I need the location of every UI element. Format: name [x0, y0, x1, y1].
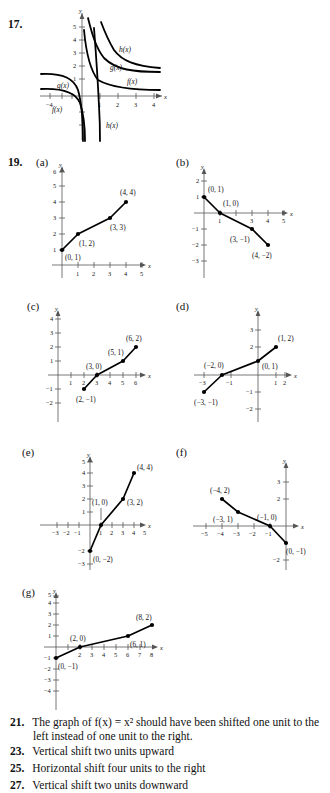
svg-text:(0, −2): (0, −2) — [93, 556, 113, 564]
graph-19a-svg: x y 1 2 3 4 5 1 2 3 4 — [48, 160, 156, 285]
svg-text:x: x — [147, 372, 151, 379]
panel-letter-a: (a) — [36, 156, 48, 168]
data-19c: (2, −1) (3, 0) (5, 1) (6, 2) — [76, 335, 142, 404]
svg-text:−2: −2 — [46, 399, 53, 406]
svg-text:4: 4 — [108, 379, 112, 386]
data-19d: (−3, −1) (−2, 0) (0, 1) (1, 2) — [194, 335, 294, 407]
svg-text:−3: −3 — [52, 529, 59, 536]
graph-19c-svg: x y 1 2 3 4 5 6 1 2 — [44, 302, 160, 430]
svg-text:5: 5 — [140, 270, 143, 277]
svg-text:2: 2 — [196, 177, 199, 184]
svg-text:3: 3 — [82, 482, 85, 489]
svg-text:2: 2 — [48, 621, 51, 628]
svg-text:(−4, 2): (−4, 2) — [210, 487, 230, 495]
svg-text:(1, 0): (1, 0) — [223, 200, 239, 208]
svg-text:4: 4 — [102, 651, 106, 658]
svg-text:x: x — [300, 523, 304, 530]
svg-text:(0, −1): (0, −1) — [286, 548, 306, 556]
svg-text:(1, 2): (1, 2) — [278, 335, 294, 343]
svg-text:1: 1 — [73, 75, 76, 82]
svg-text:(4, 4): (4, 4) — [137, 464, 153, 472]
graph-19d: x y −3 −1 1 2 2 3 −1 −2 — [190, 302, 308, 430]
svg-text:(2, 0): (2, 0) — [70, 635, 86, 643]
svg-text:1: 1 — [196, 193, 199, 200]
axes-19e: x y −3 −2 −1 1 2 3 4 5 — [40, 451, 151, 570]
answer-23-text: Vertical shift two units upward — [32, 745, 174, 757]
svg-text:h(x): h(x) — [119, 45, 131, 54]
svg-text:x: x — [163, 93, 167, 100]
graph-19b-svg: x y 1 3 4 5 1 2 −1 −2 −3 — [190, 160, 302, 285]
answer-27-line1: 27. Vertical shift two units downward — [10, 779, 326, 791]
svg-text:−4: −4 — [217, 530, 225, 537]
data-19f: (−4, 2) (−3, 1) (−1, 0) (0, −1) — [210, 487, 306, 556]
answer-key-page: 17. x y −4 1 2 3 — [0, 0, 330, 793]
svg-text:−2: −2 — [246, 405, 253, 412]
svg-text:3: 3 — [48, 610, 51, 617]
svg-text:y: y — [78, 7, 82, 14]
svg-text:2: 2 — [50, 343, 53, 350]
svg-text:1: 1 — [50, 357, 53, 364]
svg-text:4: 4 — [73, 36, 77, 43]
graph-19f-svg: x y −5 −4 −3 −2 −1 2 3 −2 — [185, 452, 313, 578]
graph-19e: x y −3 −2 −1 1 2 3 4 5 — [36, 448, 160, 578]
svg-text:5: 5 — [53, 182, 56, 189]
svg-text:−2: −2 — [249, 530, 256, 537]
data-19g: (0, −1) (2, 0) (6, 1) (8, 2) — [54, 614, 154, 671]
svg-text:−2: −2 — [44, 665, 51, 672]
svg-text:3: 3 — [90, 651, 93, 658]
svg-text:3: 3 — [53, 214, 56, 221]
svg-text:(0, 1): (0, 1) — [262, 363, 278, 371]
svg-text:(4, −2): (4, −2) — [252, 252, 272, 260]
svg-text:7: 7 — [138, 651, 142, 658]
svg-text:y: y — [254, 305, 258, 312]
answer-number-21: 21. — [10, 716, 24, 728]
svg-text:−1: −1 — [265, 530, 272, 537]
svg-text:(6, 1): (6, 1) — [130, 641, 146, 649]
svg-text:1: 1 — [53, 246, 56, 253]
svg-text:(3, 0): (3, 0) — [86, 363, 102, 371]
data-19e: (0, −2) (1, 0) (3, 2) (4, 4) — [88, 464, 153, 564]
svg-text:8: 8 — [150, 651, 153, 658]
svg-text:(5, 1): (5, 1) — [108, 349, 124, 357]
svg-text:3: 3 — [277, 478, 280, 485]
svg-text:x: x — [147, 262, 151, 269]
svg-text:−3: −3 — [199, 379, 206, 386]
svg-text:4: 4 — [132, 529, 136, 536]
svg-text:(3, 3): (3, 3) — [110, 224, 126, 232]
svg-text:−1: −1 — [46, 385, 53, 392]
svg-text:3: 3 — [50, 329, 53, 336]
svg-text:−1: −1 — [246, 388, 253, 395]
graph-17-svg: x y −4 1 2 3 4 — [38, 8, 168, 143]
svg-text:1: 1 — [218, 217, 221, 224]
svg-text:(0, −1): (0, −1) — [58, 663, 78, 671]
answer-21-text1: The graph of f(x) = x² should have been … — [32, 716, 319, 728]
svg-text:2: 2 — [53, 230, 56, 237]
svg-text:2: 2 — [283, 379, 286, 386]
svg-text:6: 6 — [134, 379, 137, 386]
data-19a: (0, 1) (1, 2) (3, 3) (4, 4) — [60, 189, 136, 262]
svg-text:y: y — [86, 451, 90, 458]
svg-text:5: 5 — [282, 217, 285, 224]
answer-number-27: 27. — [10, 779, 24, 791]
svg-text:(4, 4): (4, 4) — [120, 189, 136, 197]
svg-text:f(x): f(x) — [127, 77, 138, 86]
svg-text:5: 5 — [114, 651, 117, 658]
answer-27: 27. Vertical shift two units downward — [10, 779, 326, 791]
graph-19g-svg: x y 2 3 4 5 6 7 8 — [40, 588, 180, 714]
svg-text:f(x): f(x) — [52, 105, 63, 114]
svg-text:−2: −2 — [273, 556, 280, 563]
answer-25-line1: 25. Horizontal shift four units to the r… — [10, 762, 326, 776]
svg-text:2: 2 — [277, 495, 280, 502]
svg-text:4: 4 — [48, 599, 52, 606]
svg-text:x: x — [293, 372, 297, 379]
graph-19d-svg: x y −3 −1 1 2 2 3 −1 −2 — [190, 302, 308, 430]
answer-25: 25. Horizontal shift four units to the r… — [10, 762, 326, 776]
svg-text:5: 5 — [143, 529, 146, 536]
svg-text:1: 1 — [69, 379, 72, 386]
svg-text:4: 4 — [266, 217, 270, 224]
svg-text:y: y — [52, 587, 56, 594]
graph-19b: x y 1 3 4 5 1 2 −1 −2 −3 — [190, 160, 302, 285]
svg-text:(2, −1): (2, −1) — [76, 396, 96, 404]
svg-text:1: 1 — [76, 270, 79, 277]
svg-text:1: 1 — [82, 508, 85, 515]
